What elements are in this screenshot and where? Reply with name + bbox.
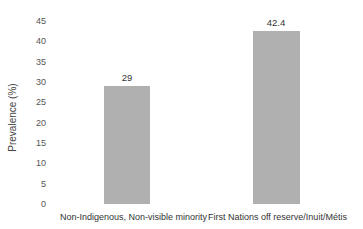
bar-value-label: 42.4 [246, 17, 306, 28]
y-tick: 20 [30, 118, 46, 128]
y-tick: 10 [30, 158, 46, 168]
y-tick: 5 [30, 179, 46, 189]
y-tick: 0 [30, 199, 46, 209]
bar-value-label: 29 [97, 72, 157, 83]
y-axis-label: Prevalence (%) [7, 58, 18, 178]
x-category-label: First Nations off reserve/Inuit/Métis [208, 212, 346, 222]
bar-non-indigenous [104, 86, 150, 204]
y-tick: 25 [30, 97, 46, 107]
y-tick: 15 [30, 138, 46, 148]
bar-first-nations [253, 31, 300, 204]
x-category-label: Non-Indigenous, Non-visible minority [60, 212, 194, 222]
y-tick: 35 [30, 57, 46, 67]
y-tick: 45 [30, 16, 46, 26]
y-tick: 30 [30, 77, 46, 87]
bar-chart: Prevalence (%) 0 5 10 15 20 25 30 35 40 … [0, 0, 363, 229]
y-tick: 40 [30, 36, 46, 46]
